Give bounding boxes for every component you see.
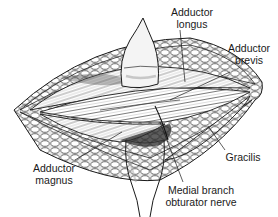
label-line: Adductor [24,162,84,174]
label-gracilis: Gracilis [218,151,268,163]
label-adductor-brevis: Adductor brevis [222,42,276,66]
label-line: Adductor [162,6,222,18]
label-line: Medial branch [158,184,244,196]
anatomical-figure: Adductor longus Adductor brevis Gracilis… [0,0,278,217]
label-line: longus [162,18,222,30]
label-line: obturator nerve [158,196,244,208]
label-line: Adductor [222,42,276,54]
label-line: magnus [24,174,84,186]
label-adductor-longus: Adductor longus [162,6,222,30]
label-adductor-magnus: Adductor magnus [24,162,84,186]
label-line: Gracilis [218,151,268,163]
label-line: brevis [222,54,276,66]
label-medial-branch-obturator-nerve: Medial branch obturator nerve [158,184,244,208]
